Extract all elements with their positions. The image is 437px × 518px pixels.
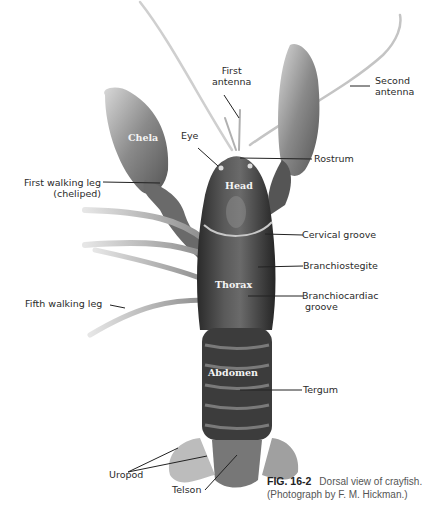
label-tergum: Tergum [303, 384, 338, 395]
label-first-antenna: First antenna [212, 65, 251, 87]
label-telson: Telson [172, 484, 201, 495]
figure-caption: FIG. 16-2Dorsal view of crayfish. (Photo… [267, 475, 422, 501]
label-chela: Chela [128, 132, 158, 143]
label-uropod: Uropod [109, 469, 143, 480]
label-cervical-groove: Cervical groove [302, 229, 376, 240]
label-second-antenna: Second antenna [375, 75, 414, 97]
walking-legs [85, 210, 205, 335]
label-eye: Eye [181, 130, 198, 141]
label-branchiocardiac-groove: Branchiocardiac groove [302, 290, 378, 312]
label-fifth-walking-leg: Fifth walking leg [25, 298, 102, 309]
label-rostrum: Rostrum [314, 153, 354, 164]
right-cheliped [268, 44, 319, 215]
figure-number: FIG. 16-2 [267, 475, 311, 487]
label-branchiostegite: Branchiostegite [303, 260, 378, 271]
label-head: Head [225, 180, 253, 191]
abdomen [202, 328, 272, 440]
label-thorax: Thorax [215, 279, 252, 290]
label-first-walking-leg: First walking leg (cheliped) [0, 177, 101, 199]
label-abdomen: Abdomen [208, 367, 258, 378]
